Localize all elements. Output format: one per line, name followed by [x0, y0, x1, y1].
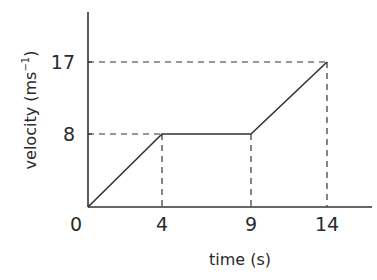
y-axis-title-main: velocity (ms: [21, 72, 40, 170]
y-tick-label-17: 17: [51, 51, 75, 73]
x-tick-label-0: 0: [70, 213, 82, 235]
y-axis-title: velocity (ms−1): [20, 51, 40, 170]
chart-canvas: 0 4 9 14 8 17 time (s) velocity (ms−1): [0, 0, 377, 280]
x-axis-title: time (s): [209, 250, 271, 269]
y-axis-title-sup: −1: [20, 57, 31, 72]
y-axis-title-close: ): [21, 51, 40, 57]
x-tick-label-14: 14: [315, 213, 339, 235]
velocity-time-chart: 0 4 9 14 8 17 time (s) velocity (ms−1): [0, 0, 377, 280]
x-tick-label-9: 9: [245, 213, 257, 235]
x-tick-label-4: 4: [156, 213, 168, 235]
y-tick-label-8: 8: [63, 123, 75, 145]
